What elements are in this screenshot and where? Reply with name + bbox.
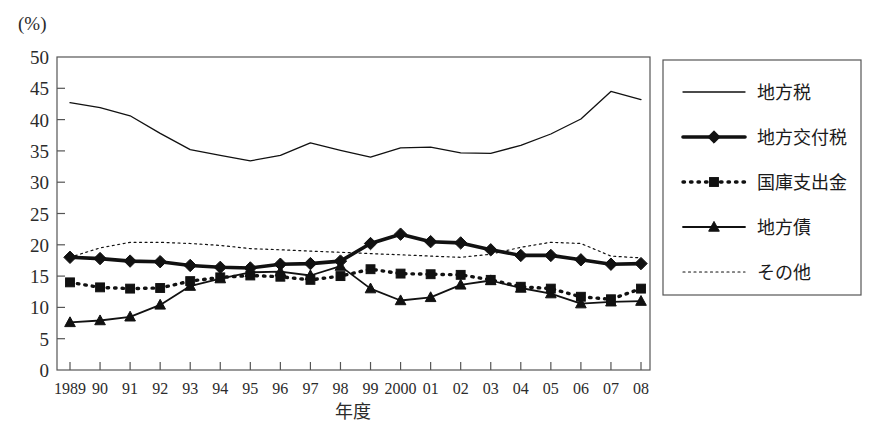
- x-tick-label: 05: [543, 380, 559, 397]
- x-tick-label: 08: [633, 380, 649, 397]
- x-tick-label: 97: [302, 380, 318, 397]
- y-axis-unit-label: (%): [18, 13, 46, 35]
- legend-label: 地方交付税: [757, 128, 847, 148]
- x-tick-label: 95: [242, 380, 258, 397]
- data-point-marker-square: [546, 284, 555, 293]
- x-tick-label: 96: [272, 380, 288, 397]
- legend-label: 国庫支出金: [757, 173, 847, 193]
- data-point-marker-square: [456, 270, 465, 279]
- x-tick-label: 07: [603, 380, 619, 397]
- y-tick-label: 10: [30, 297, 49, 318]
- x-tick-label: 04: [513, 380, 529, 397]
- data-point-marker-square: [607, 295, 616, 304]
- data-point-marker-square: [156, 284, 165, 293]
- x-tick-label: 06: [573, 380, 589, 397]
- data-point-marker-square: [306, 275, 315, 284]
- data-point-marker-square: [637, 284, 646, 293]
- data-point-marker-square: [216, 273, 225, 282]
- y-tick-label: 35: [30, 141, 49, 162]
- y-tick-label: 20: [30, 235, 49, 256]
- x-tick-label: 93: [182, 380, 198, 397]
- legend-label: その他: [757, 263, 811, 283]
- legend-label: 地方債: [757, 218, 811, 238]
- x-axis-title: 年度: [335, 402, 371, 422]
- data-point-marker-square: [66, 278, 75, 287]
- data-point-marker-square: [96, 283, 105, 292]
- x-tick-label: 03: [483, 380, 499, 397]
- data-point-marker-square: [576, 292, 585, 301]
- data-point-marker-square: [710, 178, 719, 187]
- data-point-marker-square: [426, 270, 435, 279]
- x-tick-label: 91: [122, 380, 138, 397]
- legend-label: 地方税: [757, 83, 811, 103]
- x-tick-label: 99: [363, 380, 379, 397]
- y-tick-label: 40: [30, 110, 49, 131]
- data-point-marker-square: [186, 277, 195, 286]
- x-tick-label: 01: [423, 380, 439, 397]
- data-point-marker-square: [126, 284, 135, 293]
- y-tick-label: 50: [30, 47, 49, 68]
- data-point-marker-square: [276, 272, 285, 281]
- data-point-marker-square: [396, 269, 405, 278]
- x-tick-label: 2000: [385, 380, 417, 397]
- x-tick-label: 90: [92, 380, 108, 397]
- x-tick-label: 02: [453, 380, 469, 397]
- data-point-marker-square: [516, 282, 525, 291]
- y-tick-label: 15: [30, 266, 49, 287]
- x-tick-label: 98: [332, 380, 348, 397]
- data-point-marker-square: [366, 265, 375, 274]
- y-tick-label: 45: [30, 78, 49, 99]
- y-tick-label: 5: [40, 329, 50, 350]
- x-tick-label: 92: [152, 380, 168, 397]
- data-point-marker-square: [336, 272, 345, 281]
- x-tick-label: 94: [212, 380, 228, 397]
- y-tick-label: 30: [30, 172, 49, 193]
- data-point-marker-square: [486, 275, 495, 284]
- chart-figure: (%) 05101520253035404550 198990919293949…: [0, 0, 870, 447]
- y-tick-label: 25: [30, 204, 49, 225]
- x-tick-label: 1989: [54, 380, 86, 397]
- y-tick-label: 0: [40, 360, 50, 381]
